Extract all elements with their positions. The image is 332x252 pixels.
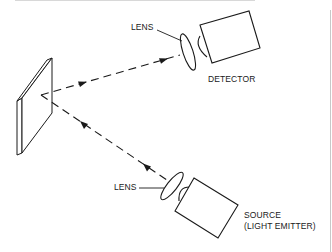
source-label-line2: (LIGHT EMITTER) bbox=[244, 221, 316, 232]
diagram-graphics bbox=[0, 0, 332, 252]
source-lens-label: LENS bbox=[114, 182, 137, 193]
detector-lens bbox=[157, 30, 199, 72]
beam-incident bbox=[41, 95, 167, 180]
detector-body bbox=[198, 11, 260, 63]
source-label-line1: SOURCE bbox=[244, 210, 281, 221]
detector-lens-leader bbox=[157, 30, 182, 41]
detector-label: DETECTOR bbox=[208, 74, 255, 85]
beam-reflected bbox=[41, 55, 180, 95]
diagram-canvas: LENS DETECTOR LENS SOURCE (LIGHT EMITTER… bbox=[0, 0, 332, 252]
arrow-right-icon bbox=[78, 82, 87, 88]
arrow-up-left-icon bbox=[143, 164, 151, 172]
arrow-right-icon bbox=[159, 58, 168, 64]
source-body bbox=[175, 178, 238, 238]
arrow-up-left-icon bbox=[80, 121, 88, 129]
detector-lens-label: LENS bbox=[131, 22, 154, 33]
reflector-plate bbox=[17, 58, 52, 155]
